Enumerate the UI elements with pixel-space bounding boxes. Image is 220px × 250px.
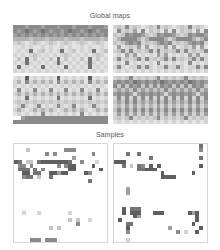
grid-cell <box>104 69 108 73</box>
samples-title: Samples <box>0 131 220 138</box>
global-map-bottom-left <box>13 76 108 124</box>
grid-cell <box>103 238 107 242</box>
global-map-top-right <box>113 25 208 73</box>
grid-cell <box>203 238 207 242</box>
grid-cell <box>104 120 108 124</box>
sample-top-right <box>113 143 208 243</box>
grid-cell <box>204 120 208 124</box>
grid-cell <box>204 69 208 73</box>
global-map-top-left <box>13 25 108 73</box>
global-map-bottom-right <box>113 76 208 124</box>
global-maps-title: Global maps <box>0 12 220 19</box>
sample-top-left <box>13 143 108 243</box>
